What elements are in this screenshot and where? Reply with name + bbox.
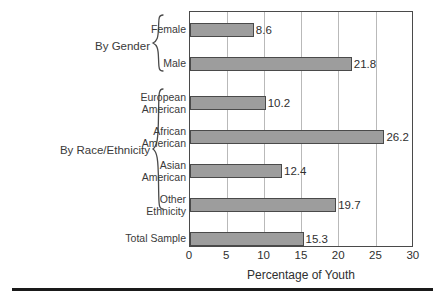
bar-african-american bbox=[190, 130, 384, 144]
x-tick-5: 5 bbox=[223, 249, 229, 261]
bar-male bbox=[190, 57, 352, 71]
x-axis-tick-labels: 0 5 10 15 20 25 30 bbox=[189, 249, 413, 265]
bar-value-male: 21.8 bbox=[352, 58, 376, 70]
bar-value-asian-american: 12.4 bbox=[282, 165, 306, 177]
x-tick-25: 25 bbox=[369, 249, 382, 261]
bar-european-american bbox=[190, 96, 266, 110]
plot-area: 8.6 21.8 10.2 26.2 12.4 19.7 15.3 bbox=[189, 11, 413, 247]
category-label-column: Female Male European American African Am… bbox=[60, 11, 186, 247]
bar-chart-figure: By Gender By Race/Ethnicity Female Male … bbox=[0, 0, 443, 300]
category-label-asian-american: Asian American bbox=[142, 160, 186, 183]
x-axis-title: Percentage of Youth bbox=[189, 268, 413, 282]
category-label-male: Male bbox=[163, 58, 186, 70]
bar-female bbox=[190, 23, 254, 37]
category-label-african-american: African American bbox=[142, 126, 186, 149]
x-tick-15: 15 bbox=[294, 249, 307, 261]
bar-asian-american bbox=[190, 164, 282, 178]
category-label-european-american: European American bbox=[140, 92, 186, 115]
bar-value-female: 8.6 bbox=[254, 24, 272, 36]
x-tick-0: 0 bbox=[186, 249, 192, 261]
category-label-female: Female bbox=[151, 24, 186, 36]
x-tick-30: 30 bbox=[406, 249, 419, 261]
bar-value-european-american: 10.2 bbox=[266, 97, 290, 109]
x-tick-20: 20 bbox=[332, 249, 345, 261]
gridline-25 bbox=[376, 12, 377, 246]
bar-value-other-ethnicity: 19.7 bbox=[336, 199, 360, 211]
category-label-other-ethnicity: Other Ethnicity bbox=[146, 194, 186, 217]
bar-total-sample bbox=[190, 232, 304, 246]
bar-value-total-sample: 15.3 bbox=[304, 233, 328, 245]
category-label-total-sample: Total Sample bbox=[125, 233, 186, 245]
bottom-rule bbox=[12, 288, 433, 291]
bar-other-ethnicity bbox=[190, 198, 336, 212]
x-tick-10: 10 bbox=[257, 249, 270, 261]
bar-value-african-american: 26.2 bbox=[384, 131, 408, 143]
